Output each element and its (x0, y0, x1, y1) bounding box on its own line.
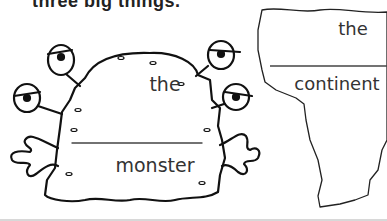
monster-article-label: the (120, 73, 210, 95)
continent-article-label: the (318, 18, 387, 39)
continent-word-label: continent (282, 73, 387, 94)
monster-word-label: monster (80, 154, 230, 176)
monster-illustration (11, 41, 259, 201)
page-edge-divider (0, 219, 387, 221)
